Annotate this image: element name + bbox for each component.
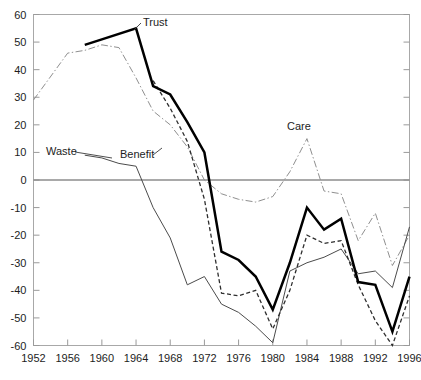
x-tick-label-1964: 1964 (124, 352, 148, 364)
y-tick-label--30: -30 (11, 257, 27, 269)
series-line-waste (85, 155, 410, 343)
series-annotation-waste: Waste (46, 145, 77, 157)
leader-line-waste (75, 152, 112, 158)
y-tick-label-0: 0 (20, 174, 26, 186)
data-series-group (34, 28, 410, 345)
series-annotations: TrustWasteBenefitCare (46, 16, 311, 160)
x-tick-label-1976: 1976 (226, 352, 250, 364)
y-tick-label-60: 60 (14, 9, 26, 21)
x-tick-label-1980: 1980 (261, 352, 285, 364)
x-tick-label-1960: 1960 (90, 352, 114, 364)
y-axis-tick-labels: 6050403020100-10-20-30-40-50-60 (11, 9, 27, 352)
y-tick-label-10: 10 (14, 146, 26, 158)
x-tick-label-1952: 1952 (21, 352, 45, 364)
series-annotation-care: Care (287, 120, 311, 132)
line-chart-figure: 6050403020100-10-20-30-40-50-60 19521956… (0, 0, 421, 380)
y-tick-label--40: -40 (11, 284, 27, 296)
y-tick-label--20: -20 (11, 229, 27, 241)
x-tick-label-1956: 1956 (55, 352, 79, 364)
y-tick-label-40: 40 (14, 64, 26, 76)
y-tick-label--10: -10 (11, 202, 27, 214)
leader-line-benefit (153, 148, 162, 155)
series-annotation-benefit: Benefit (120, 148, 154, 160)
x-tick-label-1968: 1968 (158, 352, 182, 364)
x-tick-label-1972: 1972 (192, 352, 216, 364)
y-tick-label-50: 50 (14, 36, 26, 48)
y-tick-label-20: 20 (14, 119, 26, 131)
x-tick-label-1984: 1984 (295, 352, 319, 364)
series-line-care (34, 45, 410, 266)
x-tick-label-1992: 1992 (363, 352, 387, 364)
y-tick-label--60: -60 (11, 340, 27, 352)
y-tick-label--50: -50 (11, 312, 27, 324)
x-tick-label-1988: 1988 (329, 352, 353, 364)
series-annotation-trust: Trust (143, 16, 168, 28)
chart-canvas: 6050403020100-10-20-30-40-50-60 19521956… (0, 0, 421, 380)
y-tick-label-30: 30 (14, 91, 26, 103)
x-axis-tick-labels: 1952195619601964196819721976198019841988… (21, 352, 421, 364)
x-tick-label-1996: 1996 (397, 352, 421, 364)
